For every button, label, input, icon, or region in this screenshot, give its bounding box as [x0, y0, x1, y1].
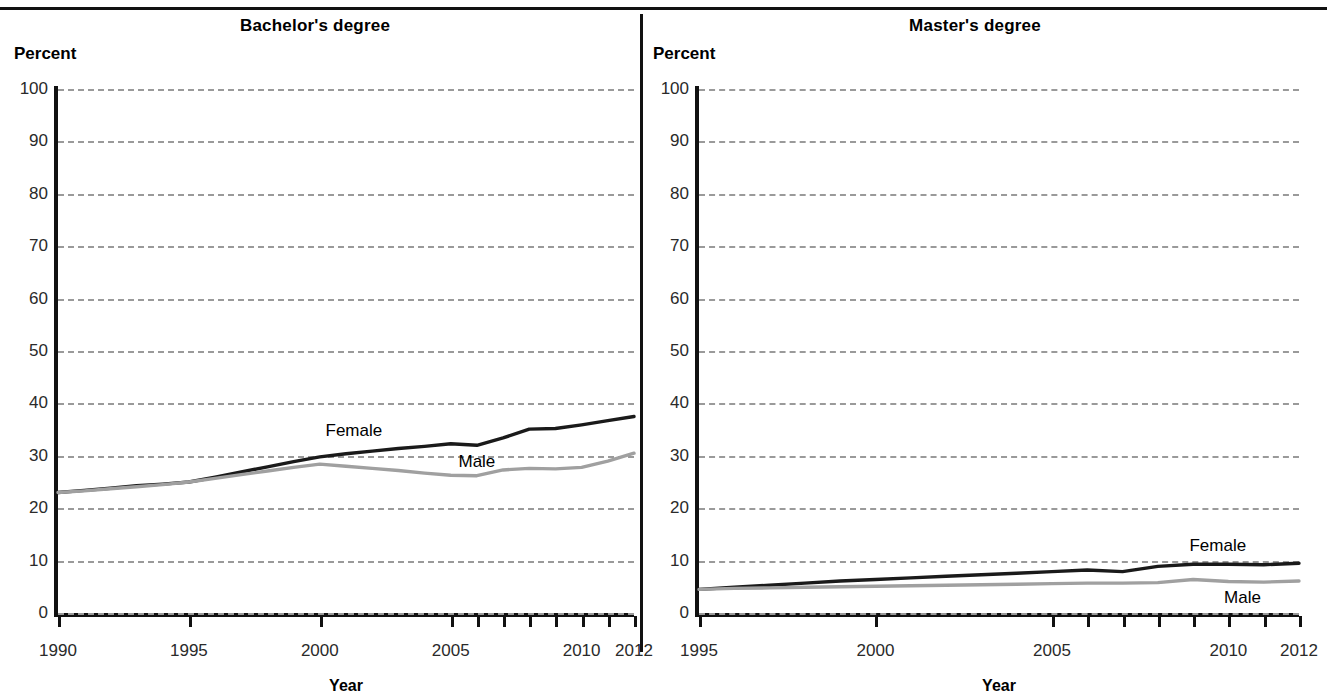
x-tick-mark — [529, 616, 532, 627]
x-tick-label: 2010 — [563, 641, 601, 661]
y-tick-label: 40 — [2, 393, 48, 413]
y-tick-label: 50 — [643, 341, 689, 361]
y-tick-label: 100 — [643, 79, 689, 99]
plot-area-bachelors: 0102030405060708090100 19901995200020052… — [58, 89, 634, 613]
x-tick-label: 1995 — [680, 641, 718, 661]
x-tick-mark — [58, 616, 61, 627]
y-tick-label: 70 — [2, 236, 48, 256]
y-tick-label: 80 — [2, 184, 48, 204]
y-tick-label: 30 — [643, 446, 689, 466]
x-tick-mark — [555, 616, 558, 627]
series-lines-bachelors — [58, 89, 634, 613]
x-tick-label: 2010 — [1209, 641, 1247, 661]
x-tick-mark — [699, 616, 702, 627]
x-tick-mark — [1299, 616, 1302, 627]
series-lines-masters — [699, 89, 1299, 613]
x-axis-title-masters: Year — [699, 677, 1299, 695]
y-tick-label: 0 — [2, 603, 48, 623]
x-tick-mark — [1264, 616, 1267, 627]
x-tick-mark — [477, 616, 480, 627]
x-tick-mark — [582, 616, 585, 627]
x-tick-label: 2000 — [857, 641, 895, 661]
x-tick-mark — [320, 616, 323, 627]
plot-area-masters: 0102030405060708090100 19952000200520102… — [699, 89, 1299, 613]
gridline — [699, 613, 1299, 615]
y-tick-label: 20 — [643, 498, 689, 518]
y-tick-label: 30 — [2, 446, 48, 466]
x-tick-mark — [634, 616, 637, 627]
yaxis-label-bachelors: Percent — [14, 44, 76, 64]
gridline — [58, 613, 634, 615]
series-label-male: Male — [458, 452, 495, 472]
x-tick-mark — [1123, 616, 1126, 627]
x-tick-mark — [1087, 616, 1090, 627]
x-tick-mark — [608, 616, 611, 627]
series-label-male: Male — [1224, 588, 1261, 608]
x-tick-mark — [189, 616, 192, 627]
y-tick-label: 100 — [2, 79, 48, 99]
x-tick-label: 1995 — [170, 641, 208, 661]
y-tick-label: 90 — [643, 131, 689, 151]
series-label-female: Female — [326, 421, 383, 441]
y-tick-label: 80 — [643, 184, 689, 204]
x-tick-mark — [1193, 616, 1196, 627]
chart-panel-masters: Master's degree Percent 0102030405060708… — [643, 0, 1327, 696]
x-tick-mark — [451, 616, 454, 627]
y-tick-label: 20 — [2, 498, 48, 518]
y-tick-label: 10 — [2, 551, 48, 571]
chart-title-bachelors: Bachelor's degree — [0, 16, 635, 36]
x-tick-mark — [1052, 616, 1055, 627]
x-tick-label: 2005 — [432, 641, 470, 661]
x-tick-mark — [875, 616, 878, 627]
y-tick-label: 40 — [643, 393, 689, 413]
x-tick-label: 2005 — [1033, 641, 1071, 661]
chart-panel-bachelors: Bachelor's degree Percent 01020304050607… — [0, 0, 640, 696]
y-tick-label: 50 — [2, 341, 48, 361]
x-tick-mark — [1228, 616, 1231, 627]
y-tick-label: 60 — [2, 289, 48, 309]
x-tick-label: 1990 — [39, 641, 77, 661]
chart-title-masters: Master's degree — [633, 16, 1317, 36]
series-label-female: Female — [1189, 536, 1246, 556]
y-tick-label: 90 — [2, 131, 48, 151]
y-tick-label: 10 — [643, 551, 689, 571]
x-tick-label: 2012 — [1280, 641, 1318, 661]
series-line-male — [58, 453, 634, 492]
x-axis-title-bachelors: Year — [58, 677, 634, 695]
x-tick-mark — [503, 616, 506, 627]
y-tick-label: 60 — [643, 289, 689, 309]
x-tick-mark — [1158, 616, 1161, 627]
y-tick-label: 70 — [643, 236, 689, 256]
yaxis-label-masters: Percent — [653, 44, 715, 64]
x-tick-label: 2000 — [301, 641, 339, 661]
y-tick-label: 0 — [643, 603, 689, 623]
